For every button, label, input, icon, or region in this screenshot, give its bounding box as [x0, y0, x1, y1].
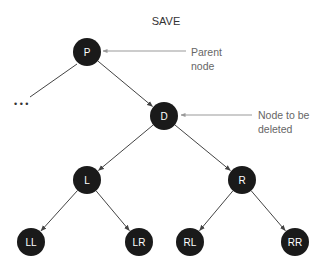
node-label: P	[84, 47, 91, 58]
parent-annotation-line-1: Parent	[191, 46, 222, 58]
edge-r-rr	[251, 191, 285, 231]
node-ll: LL	[17, 228, 45, 256]
node-r: R	[228, 166, 256, 194]
edge-d-l	[99, 125, 154, 170]
parent-annotation-line-2: node	[191, 60, 215, 72]
delete-annotation-line-1: Node to be	[258, 109, 310, 121]
node-p: P	[73, 38, 101, 66]
node-label: LR	[133, 237, 146, 248]
node-label: D	[160, 111, 167, 122]
node-label: LL	[25, 237, 37, 248]
diagram-title: SAVE	[152, 15, 181, 27]
node-rr: RR	[281, 228, 309, 256]
binary-tree-diagram: SAVE • • • PDLRLLLRRLRR Parent node Node…	[0, 0, 326, 271]
node-lr: LR	[125, 228, 153, 256]
node-l: L	[73, 166, 101, 194]
node-d: D	[150, 102, 178, 130]
node-label: RL	[184, 237, 197, 248]
node-label: R	[238, 175, 245, 186]
node-rl: RL	[176, 228, 204, 256]
edge-p-d	[98, 61, 153, 106]
node-label: L	[84, 175, 90, 186]
node-label: RR	[288, 237, 302, 248]
edge-d-r	[175, 125, 231, 171]
edge-r-rl	[200, 191, 233, 231]
delete-annotation-line-2: deleted	[258, 123, 293, 135]
edge-p-left-omitted	[30, 64, 77, 97]
edge-l-lr	[96, 191, 129, 231]
edge-l-ll	[41, 190, 78, 230]
ellipsis: • • •	[14, 99, 28, 109]
